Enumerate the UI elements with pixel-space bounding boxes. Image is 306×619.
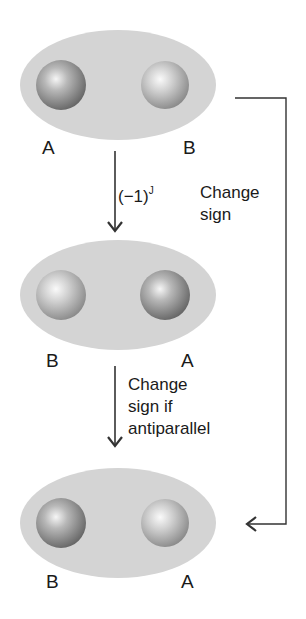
molecule-state-3 xyxy=(20,468,216,578)
step2-label-line: antiparallel xyxy=(128,418,210,440)
diagram-canvas xyxy=(0,0,306,619)
step1-label-base: (−1) xyxy=(118,187,149,206)
direct-label-line: sign xyxy=(200,204,260,226)
atom-label: B xyxy=(46,572,59,591)
direct-label: Change sign xyxy=(200,182,260,226)
direct-label-line: Change xyxy=(200,182,260,204)
atom-label: A xyxy=(181,572,194,591)
atom-sphere-a xyxy=(141,499,189,547)
atom-label: A xyxy=(181,351,194,370)
atom-sphere-b xyxy=(141,61,189,109)
molecule-state-2 xyxy=(20,240,216,350)
atom-sphere-a xyxy=(140,270,190,320)
step1-label-exponent: J xyxy=(149,185,154,196)
step1-label: (−1)J xyxy=(118,180,154,208)
step2-label-line: sign if xyxy=(128,396,210,418)
step2-label: Change sign if antiparallel xyxy=(128,374,210,440)
atom-sphere-a xyxy=(36,60,86,110)
arrow-direct xyxy=(235,98,286,531)
atom-label: B xyxy=(46,351,59,370)
molecule-state-1 xyxy=(20,30,216,140)
atom-label: B xyxy=(183,138,196,157)
atom-sphere-b xyxy=(36,498,86,548)
atom-label: A xyxy=(42,138,55,157)
step2-label-line: Change xyxy=(128,374,210,396)
arrow-step-2 xyxy=(108,366,122,446)
atom-sphere-b xyxy=(36,270,86,320)
